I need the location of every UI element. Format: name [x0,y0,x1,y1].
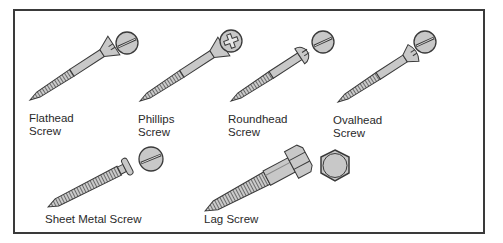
label-line: Flathead [29,112,74,125]
roundhead-screw-icon [226,43,313,108]
label-line: Screw [29,125,74,138]
slotted-head-icon [312,31,334,53]
sheet-metal-screw-icon [44,157,134,215]
slotted-head-icon [116,32,138,54]
hexagon-head-icon [321,150,349,181]
phillips-screw-icon [134,37,230,110]
slotted-head-icon [414,31,436,53]
label-line: Phillips [138,113,174,126]
ovalhead-screw-icon [333,43,422,110]
roundhead-label: Roundhead Screw [228,113,287,139]
flathead-label: Flathead Screw [29,112,74,138]
label-line: Ovalhead [333,114,382,127]
label-line: Screw [333,127,382,140]
ovalhead-label: Ovalhead Screw [333,114,382,140]
sheet-metal-label: Sheet Metal Screw [45,213,142,226]
label-line: Sheet Metal Screw [45,213,142,226]
label-line: Screw [138,126,174,139]
lag-label: Lag Screw [204,213,258,226]
phillips-head-icon [220,30,242,52]
phillips-label: Phillips Screw [138,113,174,139]
label-line: Roundhead [228,113,287,126]
label-line: Screw [228,126,287,139]
flathead-screw-icon [24,36,120,109]
slotted-head-icon [139,147,163,171]
label-line: Lag Screw [204,213,258,226]
